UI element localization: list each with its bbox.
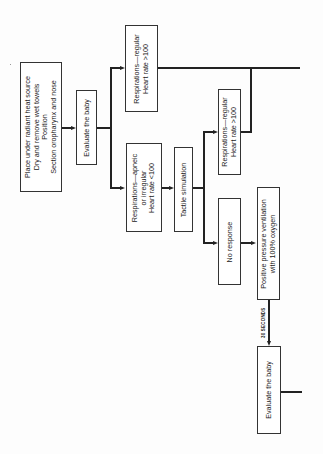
text-line: Heart rate <100 [148, 153, 157, 221]
node-regular-1: Respirations—regular Heart rate >100 [125, 25, 158, 112]
edge-label-30-seconds: 30 SECONDS [261, 307, 266, 338]
node-regular-2: Respirations—regular Heart rate >100 [218, 89, 241, 175]
arrow-head-icon [120, 186, 125, 190]
edge-evaluate-branch [97, 127, 111, 129]
text-line: Evaluate the baby [82, 99, 91, 157]
node-evaluate-2: Evaluate the baby [257, 346, 281, 434]
text-line: Evaluate the baby [265, 361, 274, 419]
arrow-head-icon [251, 241, 256, 245]
node-evaluate-1-text: Evaluate the baby [82, 99, 91, 157]
edge-regular-2-up [250, 67, 252, 133]
text-line: Heart rate >100 [230, 97, 239, 167]
scan-artifact [10, 64, 11, 65]
text-line: Heart rate >100 [142, 34, 151, 104]
edge-evaluate-2-out [281, 391, 302, 393]
node-evaluate-1: Evaluate the baby [76, 90, 97, 165]
text-line: Tactile simulation [179, 162, 188, 217]
node-tactile-text: Tactile simulation [179, 162, 188, 217]
node-no-response: No response [218, 198, 241, 285]
text-line: Respirations—regular [221, 97, 230, 167]
text-line: No response [225, 221, 234, 262]
node-evaluate-2-text: Evaluate the baby [265, 361, 274, 419]
node-no-response-text: No response [225, 221, 234, 262]
text-line: Section oropharynx and nose [50, 76, 59, 178]
node-regular-1-text: Respirations—regular Heart rate >100 [133, 34, 150, 104]
edge-regular-1-output [158, 67, 300, 69]
branch-vertical-1 [110, 67, 112, 188]
branch-vertical-2 [203, 131, 205, 243]
node-apneic-text: Respirations—apneic or irregular Heart r… [131, 153, 157, 221]
node-apneic: Respirations—apneic or irregular Heart r… [126, 143, 162, 232]
node-tactile: Tactile simulation [174, 147, 193, 232]
text-line: Positive pressure ventilation [260, 199, 269, 289]
flowchart-canvas: Place under radiant heat source Dry and … [0, 0, 323, 454]
node-prepare: Place under radiant heat source Dry and … [20, 62, 62, 192]
node-ppv-text: Positive pressure ventilation with 100% … [260, 199, 277, 289]
node-prepare-text: Place under radiant heat source Dry and … [24, 76, 58, 178]
edge-ppv-evaluate-2 [268, 300, 270, 342]
text-line: with 100% oxygen [269, 199, 278, 289]
node-regular-2-text: Respirations—regular Heart rate >100 [221, 97, 238, 167]
text-line: Respirations—regular [133, 34, 142, 104]
node-ppv: Positive pressure ventilation with 100% … [257, 187, 280, 300]
